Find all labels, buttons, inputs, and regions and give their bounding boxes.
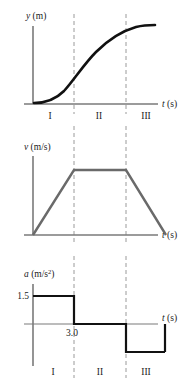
acceleration-axis-label-units: (m/s: [29, 269, 49, 280]
velocity-axis-label-units: (m/s): [28, 142, 50, 153]
acceleration-region-label-2: II: [97, 367, 103, 377]
panel-acceleration-vs-time: a (m/s2) t (s) 1.5 3.0 I II III: [17, 268, 177, 377]
acceleration-y-tick-1-5: 1.5: [17, 291, 29, 301]
velocity-curve: [33, 170, 166, 235]
position-axis-label-units: (m): [30, 11, 46, 22]
acceleration-axis-label: a (m/s2): [24, 268, 54, 280]
acceleration-axis-label-close: ): [51, 269, 54, 280]
velocity-time-label-units: (s): [165, 230, 177, 241]
acceleration-region-label-3: III: [141, 367, 151, 377]
acceleration-region-label-1: I: [51, 367, 54, 377]
acceleration-x-tick-3-0: 3.0: [66, 328, 78, 338]
position-region-label-1: I: [48, 111, 51, 121]
velocity-axis-label: v (m/s): [24, 142, 51, 153]
acceleration-time-label: t (s): [162, 313, 177, 324]
position-curve: [34, 25, 155, 103]
position-region-label-2: II: [96, 111, 102, 121]
physics-kinematics-figure: y (m) t (s) I II III v (m/s): [0, 0, 191, 389]
position-axis-label: y (m): [25, 11, 46, 22]
position-time-label-units: (s): [165, 99, 177, 110]
figure-canvas: y (m) t (s) I II III v (m/s): [0, 0, 191, 389]
position-region-label-3: III: [141, 111, 151, 121]
acceleration-time-label-units: (s): [165, 313, 177, 324]
position-time-label: t (s): [162, 99, 177, 110]
panel-position-vs-time: y (m) t (s) I II III: [24, 11, 177, 121]
panel-velocity-vs-time: v (m/s) t (s): [24, 142, 177, 241]
